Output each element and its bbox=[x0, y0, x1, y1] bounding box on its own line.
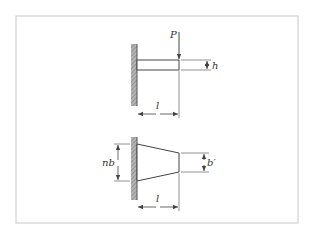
diagram-canvas: P h l nb b′ bbox=[0, 0, 311, 234]
tip-width-label: b′ bbox=[207, 157, 216, 168]
cantilever-bottom: nb b′ l bbox=[102, 137, 216, 211]
depth-label: h bbox=[212, 60, 218, 71]
root-width-label: nb bbox=[102, 157, 115, 168]
beam-top bbox=[137, 60, 179, 70]
load-label: P bbox=[169, 29, 177, 40]
length-label-top: l bbox=[156, 100, 159, 111]
fixed-wall-icon bbox=[131, 44, 137, 106]
cantilever-top: P h l bbox=[131, 29, 218, 118]
figure-frame bbox=[16, 16, 298, 223]
tapered-beam bbox=[137, 144, 179, 181]
fixed-wall-icon bbox=[131, 137, 137, 200]
length-label-bottom: l bbox=[156, 193, 159, 204]
